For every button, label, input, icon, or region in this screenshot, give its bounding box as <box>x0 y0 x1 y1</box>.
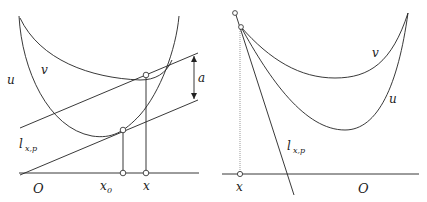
right-label-u: u <box>389 92 397 106</box>
left-point-u-x0 <box>120 127 126 133</box>
right-point-axis-x <box>237 171 242 176</box>
left-lower-line <box>20 100 198 175</box>
left-point-axis-x <box>143 170 149 176</box>
left-label-v: v <box>41 63 48 77</box>
left-label-origin: O <box>33 181 44 196</box>
left-label-x0-sub: 0 <box>107 186 112 195</box>
left-label-u: u <box>7 73 15 87</box>
left-panel: u v a l x,p O x 0 x <box>7 16 205 196</box>
right-label-v: v <box>372 46 379 60</box>
left-point-axis-x0 <box>120 170 126 176</box>
right-point-top <box>233 11 238 16</box>
left-label-l: l <box>19 137 23 151</box>
right-panel: v u l x,p x O <box>222 11 419 196</box>
right-point-contact <box>239 25 244 30</box>
right-curve-u <box>241 13 408 130</box>
right-label-x: x <box>236 180 243 194</box>
left-label-x: x <box>143 179 150 193</box>
diagram-canvas: u v a l x,p O x 0 x v u l x,p x O <box>0 0 427 202</box>
arrow-down-icon <box>191 93 197 99</box>
arrow-up-icon <box>191 56 197 62</box>
left-label-x0: x <box>100 179 107 193</box>
left-label-a: a <box>198 71 205 85</box>
right-label-origin: O <box>358 181 369 196</box>
right-label-l-sub: x,p <box>293 146 305 155</box>
right-label-l: l <box>287 139 291 153</box>
left-label-l-sub: x,p <box>25 144 37 153</box>
right-line-l <box>235 12 294 195</box>
left-point-v-x <box>143 72 149 78</box>
